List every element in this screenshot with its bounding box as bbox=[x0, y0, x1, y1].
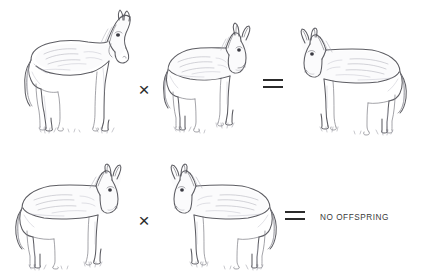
mule-illustration-left bbox=[12, 164, 134, 268]
cross-row-horse-donkey: × bbox=[0, 0, 425, 139]
mule-illustration bbox=[285, 28, 410, 134]
no-offspring-label: NO OFFSPRING bbox=[320, 213, 389, 222]
equals-bar-bottom bbox=[263, 86, 283, 88]
multiplication-sign: × bbox=[133, 211, 155, 233]
equals-sign bbox=[285, 211, 307, 225]
multiplication-glyph: × bbox=[133, 80, 155, 99]
multiplication-sign: × bbox=[133, 80, 155, 102]
equals-bar-top bbox=[263, 79, 283, 81]
cross-row-mule-mule: × bbox=[0, 139, 425, 277]
equals-glyph bbox=[263, 79, 283, 88]
equals-bar-bottom bbox=[285, 218, 305, 220]
equals-glyph bbox=[285, 211, 305, 220]
donkey-illustration bbox=[160, 22, 260, 134]
equals-sign bbox=[263, 79, 285, 93]
horse-illustration bbox=[14, 8, 136, 134]
multiplication-glyph: × bbox=[133, 211, 155, 230]
breeding-cross-diagram: × bbox=[0, 0, 425, 277]
equals-bar-top bbox=[285, 211, 305, 213]
mule-illustration-right bbox=[158, 164, 280, 268]
